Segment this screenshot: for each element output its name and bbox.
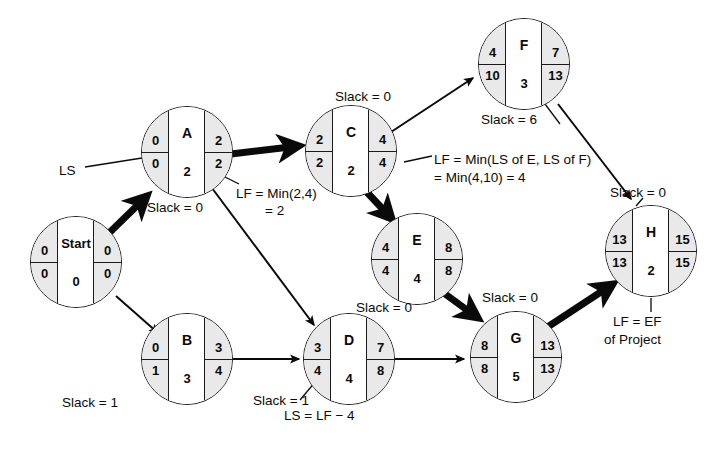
annotation-slack-h: Slack = 0 (610, 185, 666, 202)
node-latest-start: 4 (304, 359, 331, 382)
activity-node-h[interactable]: 13131515H2 (605, 205, 697, 297)
node-latest-start: 0 (31, 262, 58, 285)
annotation-slack-e: Slack = 0 (356, 300, 412, 317)
node-duration: 3 (169, 368, 205, 390)
annotation-slack-g: Slack = 0 (482, 290, 538, 307)
node-duration: 3 (506, 73, 542, 95)
node-middle-column (169, 314, 205, 404)
annotation-ls-d-note: LS = LF − 4 (284, 408, 355, 425)
node-earliest-finish: 7 (367, 336, 394, 359)
annotation-lf-h-line1: LF = EF (613, 314, 661, 331)
node-duration: 2 (633, 260, 669, 282)
activity-node-g[interactable]: 881313G5 (470, 311, 562, 403)
annotation-lf-c-line1: LF = Min(LS of E, LS of F) (434, 152, 591, 169)
node-latest-finish: 13 (542, 64, 569, 87)
node-activity-label: D (331, 329, 367, 351)
node-earliest-finish: 8 (435, 236, 462, 259)
node-earliest-start: 0 (142, 336, 169, 359)
node-latest-finish: 2 (205, 152, 232, 175)
activity-node-e[interactable]: 4488E4 (371, 213, 463, 305)
node-middle-column (633, 206, 669, 296)
node-earliest-start: 2 (306, 128, 333, 151)
node-middle-column (506, 19, 542, 109)
node-duration: 4 (399, 268, 435, 290)
activity-node-f[interactable]: 410713F3 (478, 18, 570, 110)
node-activity-label: H (633, 221, 669, 243)
node-latest-start: 10 (479, 64, 506, 87)
node-earliest-start: 3 (304, 336, 331, 359)
node-latest-start: 2 (306, 151, 333, 174)
node-earliest-start: 0 (142, 129, 169, 152)
annotation-slack-b: Slack = 1 (62, 395, 118, 412)
activity-node-c[interactable]: 2244C2 (305, 105, 397, 197)
node-activity-label: E (399, 229, 435, 251)
project-network-diagram: 0000Start00022A20134B32244C23478D44488E4… (0, 0, 724, 454)
node-latest-finish: 0 (94, 262, 121, 285)
node-earliest-finish: 7 (542, 41, 569, 64)
annotation-ls-pointer: LS (59, 163, 76, 180)
node-activity-label: B (169, 329, 205, 351)
annotation-lf-a-line2: = 2 (265, 203, 284, 220)
node-latest-finish: 8 (367, 359, 394, 382)
annotation-lf-c-line2: = Min(4,10) = 4 (434, 170, 526, 187)
node-duration: 0 (58, 271, 94, 293)
edge-a-c (231, 146, 299, 154)
activity-node-d[interactable]: 3478D4 (303, 313, 395, 405)
node-middle-column (169, 107, 205, 197)
node-earliest-finish: 0 (94, 239, 121, 262)
node-latest-start: 4 (372, 259, 399, 282)
node-latest-finish: 15 (669, 251, 696, 274)
node-latest-start: 8 (471, 357, 498, 380)
node-latest-start: 13 (606, 251, 633, 274)
node-duration: 4 (331, 368, 367, 390)
node-earliest-finish: 2 (205, 129, 232, 152)
node-earliest-start: 0 (31, 239, 58, 262)
node-latest-start: 0 (142, 152, 169, 175)
node-middle-column (331, 314, 367, 404)
node-middle-column (333, 106, 369, 196)
annotation-slack-f: Slack = 6 (481, 112, 537, 129)
node-duration: 5 (498, 366, 534, 388)
activity-node-a[interactable]: 0022A2 (141, 106, 233, 198)
activity-node-b[interactable]: 0134B3 (141, 313, 233, 405)
node-middle-column (58, 217, 94, 307)
node-earliest-finish: 3 (205, 336, 232, 359)
node-earliest-start: 8 (471, 334, 498, 357)
node-latest-finish: 13 (534, 357, 561, 380)
node-earliest-finish: 13 (534, 334, 561, 357)
node-latest-finish: 4 (205, 359, 232, 382)
node-latest-finish: 4 (369, 151, 396, 174)
node-middle-column (399, 214, 435, 304)
node-earliest-start: 4 (479, 41, 506, 64)
node-earliest-start: 13 (606, 228, 633, 251)
node-middle-column (498, 312, 534, 402)
annotation-slack-a: Slack = 0 (147, 200, 203, 217)
node-earliest-finish: 15 (669, 228, 696, 251)
annotation-slack-c: Slack = 0 (335, 89, 391, 106)
edge-a-d (209, 184, 314, 325)
node-activity-label: G (498, 327, 534, 349)
leader-ls-pointer (85, 158, 142, 167)
node-activity-label: C (333, 121, 369, 143)
node-earliest-finish: 4 (369, 128, 396, 151)
leader-lf-c (404, 156, 432, 162)
annotation-lf-h-line2: of Project (604, 332, 661, 349)
node-earliest-start: 4 (372, 236, 399, 259)
node-activity-label: F (506, 34, 542, 56)
node-latest-finish: 8 (435, 259, 462, 282)
activity-node-start[interactable]: 0000Start0 (30, 216, 122, 308)
node-latest-start: 1 (142, 359, 169, 382)
node-duration: 2 (333, 160, 369, 182)
node-duration: 2 (169, 161, 205, 183)
annotation-lf-a-line1: LF = Min(2,4) (236, 186, 317, 203)
edge-c-f (388, 78, 473, 134)
node-activity-label: Start (58, 232, 94, 254)
node-activity-label: A (169, 122, 205, 144)
